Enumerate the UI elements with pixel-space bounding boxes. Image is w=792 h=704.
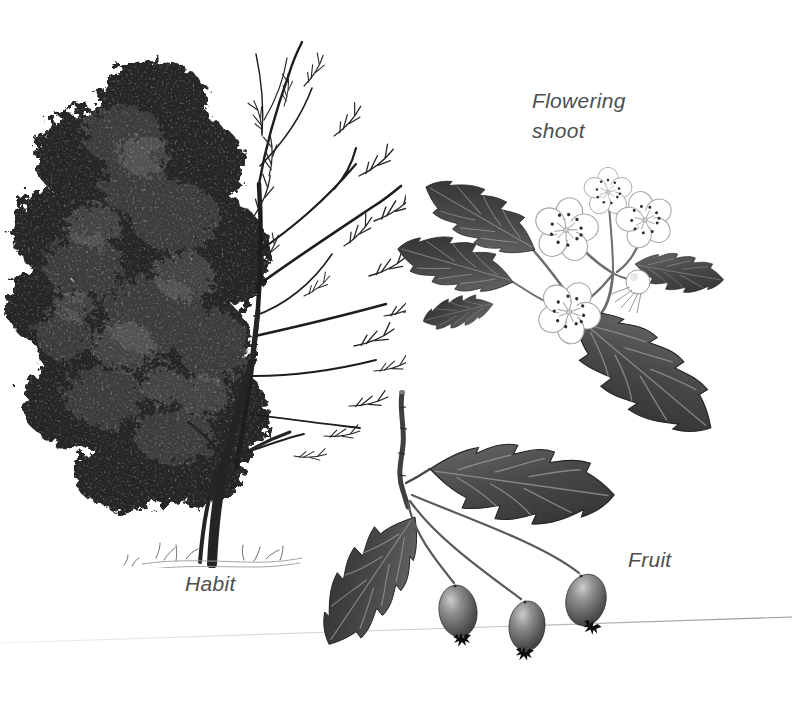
- fruit-illustration: [316, 383, 651, 688]
- leaf: [424, 433, 619, 534]
- berries: [436, 570, 611, 662]
- book-page: Flowering shoot Habit Fruit: [0, 0, 792, 704]
- berry: [561, 570, 611, 637]
- leaf: [419, 289, 496, 335]
- flowering-shoot-label: Flowering shoot: [532, 86, 626, 146]
- habit-label: Habit: [185, 569, 236, 599]
- fruit-label: Fruit: [628, 545, 672, 575]
- leaf: [316, 498, 440, 661]
- flower-bud: [611, 270, 650, 313]
- berry: [436, 583, 481, 647]
- fruit-twig: [398, 390, 430, 507]
- berry: [507, 600, 547, 663]
